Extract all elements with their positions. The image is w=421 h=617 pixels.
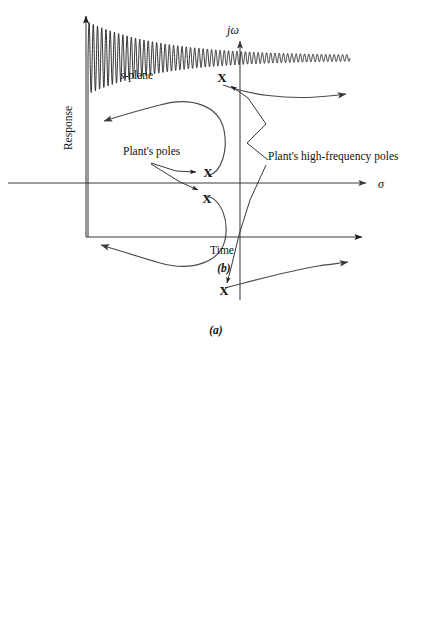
pole-marker-hf-lower: X bbox=[219, 283, 229, 298]
panel-b-time-response: Response Time (b) bbox=[0, 340, 421, 617]
response-trace bbox=[88, 23, 350, 237]
response-x-axis-label: Time bbox=[210, 244, 234, 256]
response-y-axis-label: Response bbox=[62, 106, 75, 150]
caption-a: (a) bbox=[209, 324, 223, 337]
caption-b: (b) bbox=[217, 262, 231, 275]
figure-root: X X X X jω σ s-plane Plant's poles Plant… bbox=[0, 0, 421, 617]
